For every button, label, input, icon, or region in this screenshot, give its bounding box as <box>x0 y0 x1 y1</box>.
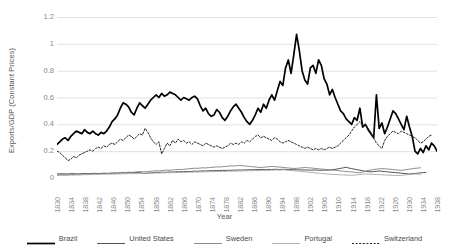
x-tick-label: 1898 <box>292 197 301 213</box>
x-axis-tick-labels: 1830183418381842184618501854185818621866… <box>0 180 449 213</box>
exports-gdp-line-chart: Exports/GDP (Constant Prices) 00.20.40.6… <box>0 0 449 252</box>
x-tick-label: 1890 <box>264 197 273 213</box>
x-tick-label: 1854 <box>137 197 146 213</box>
x-tick-label: 1914 <box>349 197 358 213</box>
x-tick-label: 1834 <box>67 197 76 213</box>
x-tick-label: 1862 <box>166 197 175 213</box>
x-tick-label: 1850 <box>123 197 132 213</box>
x-tick-label: 1866 <box>180 197 189 213</box>
x-tick-label: 1910 <box>334 197 343 213</box>
x-tick-label: 1906 <box>320 197 329 213</box>
x-tick-label: 1938 <box>433 197 442 213</box>
legend-label-brazil: Brazil <box>59 234 77 243</box>
x-tick-label: 1838 <box>81 197 90 213</box>
legend-item-switzerland[interactable]: Switzerland <box>352 234 422 243</box>
series-line-switzerland <box>57 122 431 161</box>
plot-area <box>57 17 437 178</box>
y-tick-label: 1.2 <box>30 13 54 21</box>
x-tick-label: 1874 <box>208 197 217 213</box>
x-tick-label: 1930 <box>405 197 414 213</box>
x-tick-label: 1830 <box>53 197 62 213</box>
legend-swatch-sweden <box>194 234 222 243</box>
legend-label-sweden: Sweden <box>226 234 253 243</box>
legend-label-united-states: United States <box>129 234 173 243</box>
series-line-brazil <box>57 34 437 153</box>
y-tick-label: 1 <box>30 40 54 48</box>
legend-item-sweden[interactable]: Sweden <box>194 234 253 243</box>
y-tick-label: 0.4 <box>30 120 54 128</box>
y-tick-label: 0.2 <box>30 147 54 155</box>
series-canvas <box>57 17 437 178</box>
legend-swatch-brazil <box>27 234 55 243</box>
x-tick-label: 1934 <box>419 197 428 213</box>
x-tick-label: 1902 <box>306 197 315 213</box>
x-tick-label: 1846 <box>109 197 118 213</box>
legend-swatch-portugal <box>272 234 300 243</box>
legend-item-brazil[interactable]: Brazil <box>27 234 77 243</box>
legend-label-switzerland: Switzerland <box>384 234 422 243</box>
y-tick-label: 0.6 <box>30 94 54 102</box>
x-tick-label: 1922 <box>377 197 386 213</box>
x-tick-label: 1894 <box>278 197 287 213</box>
x-tick-label: 1858 <box>152 197 161 213</box>
x-tick-label: 1926 <box>391 197 400 213</box>
x-tick-label: 1918 <box>363 197 372 213</box>
y-axis-title: Exports/GDP (Constant Prices) <box>7 26 16 176</box>
x-tick-label: 1878 <box>222 197 231 213</box>
x-tick-label: 1870 <box>194 197 203 213</box>
legend-swatch-united-states <box>97 234 125 243</box>
x-tick-label: 1882 <box>236 197 245 213</box>
legend-swatch-switzerland <box>352 234 380 243</box>
legend-item-united-states[interactable]: United States <box>97 234 173 243</box>
y-tick-label: 0.8 <box>30 67 54 75</box>
x-tick-label: 1886 <box>250 197 259 213</box>
x-tick-label: 1842 <box>95 197 104 213</box>
legend-item-portugal[interactable]: Portugal <box>272 234 332 243</box>
x-axis-title: Year <box>0 212 449 221</box>
chart-legend: BrazilUnited StatesSwedenPortugalSwitzer… <box>0 230 449 246</box>
legend-label-portugal: Portugal <box>304 234 332 243</box>
